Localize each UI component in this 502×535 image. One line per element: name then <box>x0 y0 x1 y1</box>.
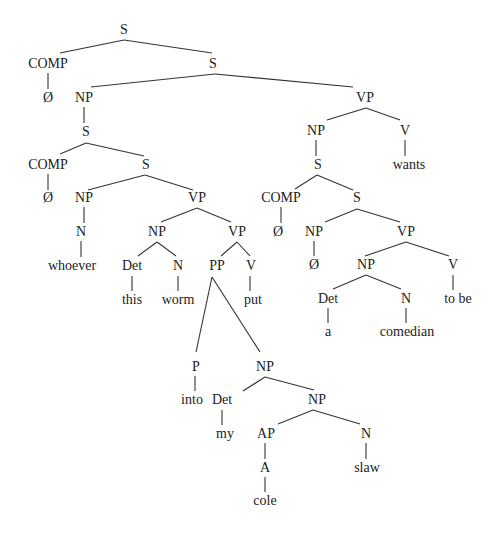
tree-node-s0: S <box>120 22 128 37</box>
tree-node-det1: Det <box>318 291 338 306</box>
tree-node-np5: NP <box>357 257 375 272</box>
tree-branch <box>138 242 157 256</box>
tree-node-n3: N <box>361 426 371 441</box>
tree-node-p0: P <box>192 359 200 374</box>
tree-node-vp3: VP <box>397 224 415 239</box>
tree-node-null1: Ø <box>43 190 53 205</box>
tree-node-v0: V <box>400 123 410 138</box>
tree-branch <box>313 410 360 424</box>
tree-node-n0: N <box>76 224 86 239</box>
tree-branch <box>197 208 231 222</box>
tree-branch <box>317 175 353 190</box>
tree-node-s1: S <box>209 56 217 71</box>
tree-node-ap0: AP <box>257 426 275 441</box>
tree-node-put: put <box>244 292 262 307</box>
tree-branch <box>221 242 237 256</box>
tree-node-null0: Ø <box>43 90 53 105</box>
tree-branch <box>366 275 401 289</box>
tree-node-a0: A <box>260 460 271 475</box>
tree-branch <box>406 242 449 256</box>
tree-node-comp1: COMP <box>28 157 68 172</box>
tree-node-np7: NP <box>308 392 326 407</box>
tree-node-into: into <box>181 392 203 407</box>
tree-branch <box>91 74 215 87</box>
tree-branch <box>88 175 145 190</box>
syntax-tree-diagram: SCOMPSØNPVPSNPVCOMPSSwantsØNPVPCOMPSNNPV… <box>0 0 502 535</box>
tree-node-wants: wants <box>393 157 426 172</box>
tree-node-cole: cole <box>253 493 276 508</box>
tree-node-worm: worm <box>162 292 195 307</box>
tree-branch <box>157 242 176 256</box>
tree-node-comp0: COMP <box>28 56 68 71</box>
tree-node-vp1: VP <box>188 190 206 205</box>
tree-branch <box>357 209 400 222</box>
tree-node-np2: NP <box>75 190 93 205</box>
tree-node-det2: Det <box>212 392 232 407</box>
tree-branch <box>161 208 197 222</box>
tree-branch <box>196 277 212 352</box>
tree-branch <box>333 275 366 289</box>
tree-branch <box>215 74 353 87</box>
tree-branch <box>237 242 250 256</box>
tree-nodes: SCOMPSØNPVPSNPVCOMPSSwantsØNPVPCOMPSNNPV… <box>28 22 472 508</box>
tree-node-pp0: PP <box>209 258 225 273</box>
tree-node-null2: Ø <box>273 224 283 239</box>
tree-node-comp2: COMP <box>261 190 301 205</box>
tree-branch <box>60 40 124 53</box>
tree-branch <box>265 377 314 390</box>
tree-branch <box>212 277 260 352</box>
tree-branch <box>243 377 265 391</box>
tree-branch <box>60 143 86 154</box>
tree-node-s2: S <box>82 124 90 139</box>
tree-branch <box>86 143 144 156</box>
tree-node-s4: S <box>314 157 322 172</box>
tree-node-det0: Det <box>122 258 142 273</box>
tree-branch <box>295 175 317 189</box>
tree-node-np3: NP <box>148 224 166 239</box>
tree-node-np0: NP <box>75 90 93 105</box>
tree-node-n2: N <box>401 291 411 306</box>
tree-node-s5: S <box>353 190 361 205</box>
tree-node-v1: V <box>246 258 256 273</box>
tree-node-np4: NP <box>305 224 323 239</box>
tree-node-whoever: whoever <box>48 258 97 273</box>
tree-branch <box>278 410 313 424</box>
tree-node-this: this <box>122 292 142 307</box>
tree-node-tobe: to be <box>444 291 472 306</box>
tree-branch <box>124 40 212 53</box>
tree-node-my: my <box>216 426 234 441</box>
tree-node-null3: Ø <box>309 257 319 272</box>
tree-node-n1: N <box>173 258 183 273</box>
tree-node-slaw: slaw <box>354 460 381 475</box>
tree-branch <box>145 175 193 190</box>
tree-node-comedian: comedian <box>380 324 434 339</box>
tree-branch <box>327 108 366 120</box>
tree-branch <box>366 108 400 120</box>
tree-node-vp2: VP <box>228 224 246 239</box>
tree-node-v2: V <box>448 257 458 272</box>
tree-node-np6: NP <box>256 359 274 374</box>
tree-node-a: a <box>325 324 332 339</box>
tree-branch <box>365 242 406 256</box>
tree-branch <box>325 209 357 222</box>
tree-node-vp0: VP <box>356 90 374 105</box>
tree-node-s3: S <box>142 157 150 172</box>
tree-node-np1: NP <box>307 123 325 138</box>
